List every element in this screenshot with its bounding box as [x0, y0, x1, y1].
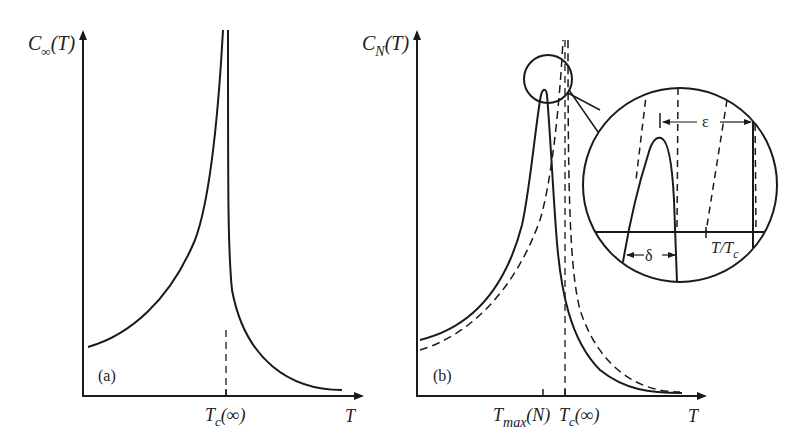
panel-a-curve-right [228, 30, 342, 390]
specific-heat-diagram: C∞(T) (a) Tc(∞) T CN(T) (b) Tmax(N) [0, 0, 807, 445]
panel-a-tag: (a) [98, 367, 116, 385]
panel-a-tc-label: Tc(∞) [205, 405, 246, 429]
panel-b-y-label: CN(T) [362, 32, 409, 59]
magnifier-connector [569, 90, 598, 132]
panel-b-x-label: T [688, 406, 700, 426]
inset-magnified-view: ε δ T/Tc [583, 88, 777, 282]
panel-a-x-label: T [345, 406, 357, 426]
panel-b-tc-label: Tc(∞) [559, 405, 600, 429]
panel-b-infinite-curve-left [420, 40, 563, 350]
panel-a: C∞(T) (a) Tc(∞) T [28, 30, 362, 429]
inset-epsilon-label: ε [702, 113, 709, 130]
panel-b-tmax-label: Tmax(N) [493, 405, 550, 430]
inset-delta-label: δ [645, 247, 653, 264]
panel-b-tag: (b) [433, 367, 452, 385]
panel-a-curve-left [88, 30, 223, 347]
panel-a-y-label: C∞(T) [28, 32, 75, 59]
